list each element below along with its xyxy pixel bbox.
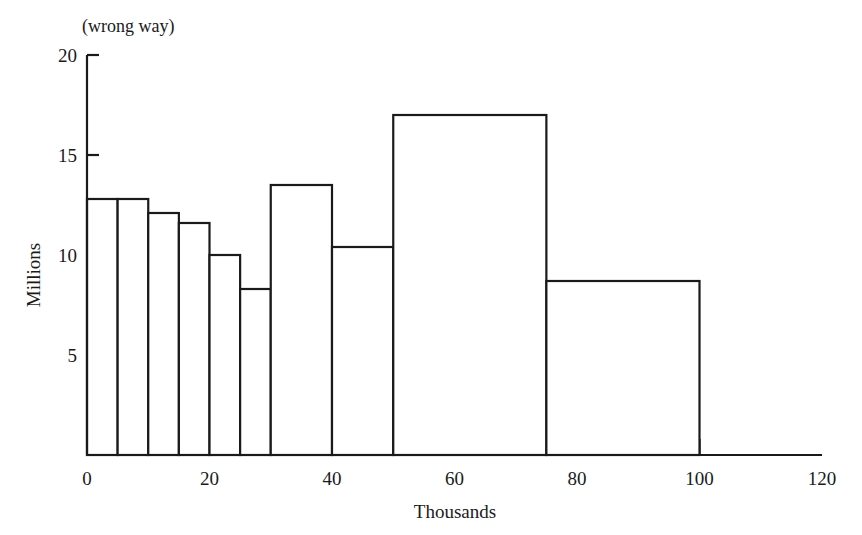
y-tick-label: 15	[58, 145, 77, 166]
histogram-figure: (wrong way) Millions Thousands 5101520 0…	[0, 0, 862, 535]
histogram-bar	[179, 223, 210, 455]
y-axis-title: Millions	[23, 243, 44, 307]
histogram-bar	[271, 185, 332, 455]
histogram-bar	[210, 255, 241, 455]
histogram-bar	[118, 199, 149, 455]
x-tick-label: 20	[200, 468, 219, 489]
y-tick-label: 10	[58, 245, 77, 266]
chart-note: (wrong way)	[82, 16, 174, 37]
x-axis-title: Thousands	[414, 501, 496, 522]
y-tick-label: 20	[58, 45, 77, 66]
x-tick-label: 80	[568, 468, 587, 489]
histogram-bar	[87, 199, 118, 455]
histogram-chart: (wrong way) Millions Thousands 5101520 0…	[0, 0, 862, 535]
x-tick-label: 120	[808, 468, 837, 489]
x-tick-label: 60	[445, 468, 464, 489]
histogram-bar	[148, 213, 179, 455]
histogram-bar	[393, 115, 546, 455]
x-tick-label: 40	[323, 468, 342, 489]
y-tick-label: 5	[68, 345, 78, 366]
histogram-bar	[546, 281, 699, 455]
histogram-bar	[332, 247, 393, 455]
histogram-bar	[240, 289, 271, 455]
x-tick-label: 0	[82, 468, 92, 489]
x-tick-label: 100	[685, 468, 714, 489]
